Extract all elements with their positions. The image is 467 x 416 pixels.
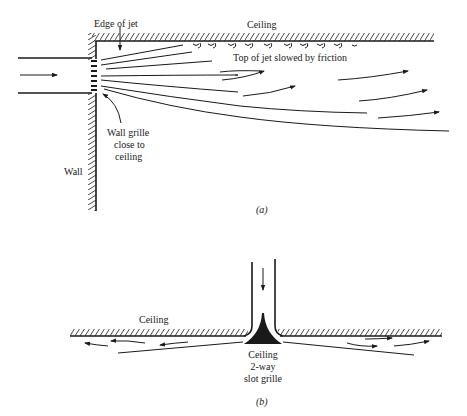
friction-eddies [193, 43, 357, 48]
left-spread-line [118, 342, 243, 353]
label-wall: Wall [64, 166, 83, 177]
wall-grille [91, 61, 97, 90]
wall-grille-pointer [103, 94, 121, 123]
ceiling-hatch-a [92, 33, 434, 41]
label-top-of-jet: Top of jet slowed by friction [233, 52, 347, 63]
ceiling-hatch-left [70, 329, 248, 336]
label-wall-grille-3: ceiling [115, 151, 142, 162]
air-jet-diagram: Edge of jet Ceiling Top of jet slowed by… [0, 0, 467, 416]
label-edge-of-jet: Edge of jet [94, 18, 138, 29]
ceiling-hatch-right [278, 329, 442, 336]
figure-a: Edge of jet Ceiling Top of jet slowed by… [18, 18, 449, 216]
slot-duct-right [275, 259, 283, 336]
caption-b: (b) [256, 396, 268, 408]
wall-hatch-lower [88, 93, 96, 211]
wall-hatch-upper [88, 33, 96, 60]
label-grille-1: Ceiling [248, 349, 277, 360]
label-grille-2: 2-way [251, 361, 276, 372]
caption-a: (a) [256, 204, 268, 216]
label-ceiling-a: Ceiling [247, 19, 276, 30]
label-wall-grille-2: close to [114, 139, 145, 150]
splitter-vane [244, 313, 282, 344]
label-grille-3: slot grille [244, 373, 283, 384]
slot-duct-left [244, 262, 252, 336]
label-wall-grille-1: Wall grille [107, 127, 150, 138]
label-ceiling-b: Ceiling [139, 314, 168, 325]
figure-b: Ceiling Ceiling 2-way slot grille (b) [70, 259, 442, 408]
